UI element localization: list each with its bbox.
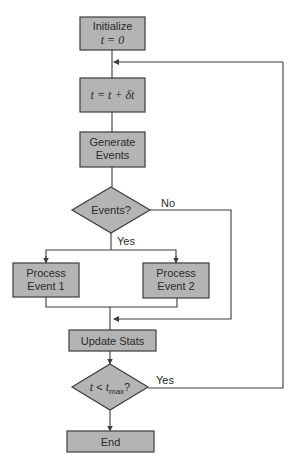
process2-label-1: Process — [156, 267, 196, 279]
node-process-event-1: Process Event 1 — [13, 263, 79, 297]
end-label: End — [101, 436, 121, 448]
node-process-event-2: Process Event 2 — [143, 263, 209, 298]
node-end: End — [67, 431, 154, 452]
tmax-subscript: max — [109, 387, 124, 396]
node-events-decision: Events? — [72, 187, 150, 233]
time-op: < — [93, 381, 106, 393]
edge-label-yes-events: Yes — [117, 235, 135, 247]
increment-formula: t = t + δt — [91, 88, 135, 102]
edge-label-no: No — [161, 197, 175, 209]
node-time-decision: t < tmax? — [72, 364, 148, 410]
node-update-stats: Update Stats — [69, 330, 156, 351]
initialize-label: Initialize — [93, 20, 133, 32]
update-stats-label: Update Stats — [81, 335, 145, 347]
process2-label-2: Event 2 — [157, 280, 194, 292]
generate-label-2: Events — [96, 149, 130, 161]
flowchart: Initialize t = 0 t = t + δt Generate Eve… — [0, 0, 296, 460]
node-generate-events: Generate Events — [80, 132, 145, 167]
generate-label-1: Generate — [90, 136, 136, 148]
node-increment-time: t = t + δt — [80, 78, 145, 112]
edge-loop-right — [148, 62, 283, 388]
initialize-formula: t = 0 — [101, 33, 124, 47]
node-initialize: Initialize t = 0 — [80, 17, 145, 50]
time-question: ? — [124, 381, 130, 393]
edge-yes-branch — [46, 250, 176, 262]
process1-label-1: Process — [26, 267, 66, 279]
edge-label-yes-loop: Yes — [156, 374, 174, 386]
process1-label-2: Event 1 — [27, 280, 64, 292]
events-decision-label: Events? — [91, 204, 131, 216]
